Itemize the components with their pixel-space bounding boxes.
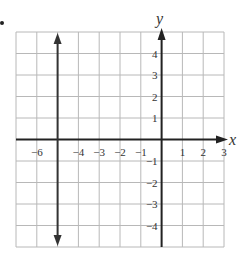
x-tick-label: −2 (114, 146, 126, 158)
y-tick-label: −3 (146, 198, 158, 210)
x-tick-label: 2 (200, 146, 206, 158)
arrow-down-icon (54, 235, 62, 246)
y-tick-label: −1 (146, 155, 158, 167)
x-tick-label: −6 (31, 146, 43, 158)
x-tick-label: 3 (221, 146, 227, 158)
x-tick-label: −3 (93, 146, 105, 158)
arrow-up-icon (54, 33, 62, 44)
x-axis-arrow-icon (216, 136, 228, 144)
y-tick-label: −4 (146, 220, 158, 232)
coordinate-graph: −6−4−3−2−11234321−1−2−3−4 x y (0, 0, 239, 253)
y-tick-label: 4 (152, 48, 158, 60)
axes (16, 28, 228, 247)
x-tick-label: −4 (73, 146, 85, 158)
y-tick-label: −2 (146, 177, 158, 189)
y-axis-arrow-icon (158, 28, 166, 40)
y-axis-label: y (154, 10, 164, 28)
x-axis-label: x (228, 131, 236, 148)
y-tick-label: 1 (152, 112, 158, 124)
y-tick-label: 2 (152, 91, 158, 103)
y-tick-label: 3 (152, 69, 158, 81)
x-tick-label: 1 (180, 146, 186, 158)
